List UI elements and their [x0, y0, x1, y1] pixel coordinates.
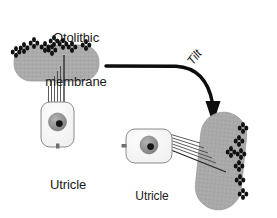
label-utricle-upright-line1: Utricle	[22, 178, 114, 193]
otolithic-membrane-tilted	[193, 110, 249, 212]
hair-cell-tilted	[122, 129, 173, 163]
label-otolithic-membrane-line2: membrane	[26, 75, 126, 90]
figure-canvas: Otolithic membrane Utricle upright Utric…	[0, 0, 277, 218]
label-otolithic-membrane-line1: Otolithic	[26, 31, 126, 46]
nerve-nub-tilted	[122, 144, 127, 148]
label-otolithic-membrane: Otolithic membrane	[26, 2, 126, 118]
nucleolus-upright	[56, 120, 63, 127]
nerve-nub-upright	[56, 144, 60, 149]
label-utricle-tilted: Utricle tilted	[112, 163, 192, 218]
label-utricle-tilted-line1: Utricle	[112, 190, 192, 203]
nucleolus-tilted	[147, 143, 154, 150]
label-utricle-upright: Utricle upright	[22, 149, 114, 218]
